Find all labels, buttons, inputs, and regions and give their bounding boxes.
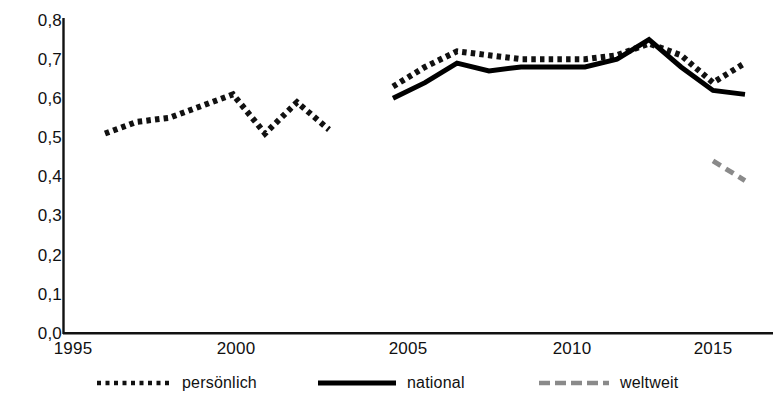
series-line-persnlich [105, 94, 329, 133]
series-line-weltweit [713, 161, 745, 181]
legend-swatch-dotted-icon [95, 378, 173, 388]
data-series-layer [105, 40, 745, 181]
legend-item-national[interactable]: national [316, 370, 465, 396]
axis-lines [63, 18, 773, 334]
x-tick-label: 1995 [43, 340, 103, 357]
chart-legend: persönlich national weltweit [0, 370, 773, 396]
x-tick-label: 2010 [542, 340, 602, 357]
legend-label: persönlich [182, 374, 257, 392]
plot-area [0, 0, 773, 398]
legend-swatch-solid-icon [316, 378, 398, 388]
x-tick-label: 2005 [378, 340, 438, 357]
chart-container: 0,8 0,7 0,6 0,5 0,4 0,3 0,2 0,1 0,0 1995… [0, 0, 773, 398]
series-line-national [393, 40, 745, 99]
x-tick-label: 2000 [206, 340, 266, 357]
x-tick-label: 2015 [683, 340, 743, 357]
legend-item-persoenlich[interactable]: persönlich [95, 370, 257, 396]
legend-label: weltweit [620, 374, 679, 392]
legend-swatch-dashed-icon [537, 378, 611, 388]
legend-item-weltweit[interactable]: weltweit [537, 370, 679, 396]
legend-label: national [407, 374, 465, 392]
